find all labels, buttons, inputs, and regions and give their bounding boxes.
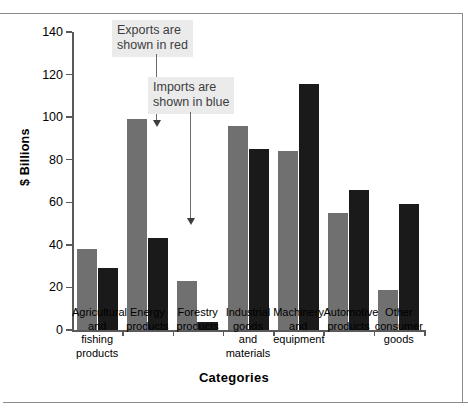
x-tick-label-4: Machineryandequipment xyxy=(273,306,323,347)
x-tick-label-line: equipment xyxy=(273,333,324,345)
x-tick-label-line: and xyxy=(289,320,307,332)
annotation-exports: Exports areshown in red xyxy=(112,20,193,57)
y-tick-label: 120 xyxy=(42,68,63,82)
x-tick-label-line: goods and xyxy=(233,320,263,346)
y-tick xyxy=(66,287,72,289)
x-tick-label-3: Industrialgoods andmaterials xyxy=(223,306,273,360)
y-tick-label: 40 xyxy=(49,238,63,252)
y-tick xyxy=(66,244,72,246)
bar-exports-1 xyxy=(127,119,147,330)
annotation-exports-arrow-head xyxy=(153,120,161,127)
x-tick-label-line: materials xyxy=(226,347,271,359)
x-tick-label-0: Agriculturaland fishingproducts xyxy=(72,306,122,360)
frame-bottom-border xyxy=(3,402,468,403)
annotation-imports-arrow-head xyxy=(187,218,195,225)
frame-top-border xyxy=(0,13,462,14)
x-tick-label-line: products xyxy=(177,320,219,332)
y-tick xyxy=(66,74,72,76)
x-tick-label-line: goods xyxy=(384,333,414,345)
y-tick-label: 80 xyxy=(49,153,63,167)
bar-imports-4 xyxy=(299,84,319,330)
x-tick-label-line: and fishing xyxy=(81,320,113,346)
y-axis-line xyxy=(72,32,74,330)
x-tick-label-line: consumer xyxy=(375,320,423,332)
x-tick-label-line: Energy xyxy=(130,306,165,318)
x-axis-title: Categories xyxy=(0,370,468,385)
x-tick-label-line: Automotive xyxy=(323,306,378,318)
y-tick-label: 140 xyxy=(42,25,63,39)
y-tick xyxy=(66,31,72,33)
annotation-line: shown in blue xyxy=(153,95,229,109)
x-tick-label-line: Agricultural xyxy=(72,306,127,318)
bar-exports-4 xyxy=(278,151,298,330)
x-tick-label-line: Other xyxy=(385,306,413,318)
annotation-imports-arrow-line xyxy=(190,112,191,220)
y-tick-label: 20 xyxy=(49,280,63,294)
y-tick xyxy=(66,159,72,161)
y-tick-label: 0 xyxy=(56,323,63,337)
x-tick-label-line: Forestry xyxy=(178,306,218,318)
annotation-line: shown in red xyxy=(117,38,188,52)
x-tick-label-line: Machinery xyxy=(273,306,324,318)
x-tick-label-1: Energyproducts xyxy=(122,306,172,333)
chart-figure: $ Billions Categories 020406080100120140… xyxy=(0,0,468,415)
plot-area: 020406080100120140 xyxy=(72,32,424,330)
x-tick-label-6: Otherconsumergoods xyxy=(374,306,424,347)
x-tick xyxy=(424,330,426,336)
frame-right-border xyxy=(462,13,463,403)
bar-imports-3 xyxy=(249,149,269,330)
y-tick xyxy=(66,202,72,204)
x-tick-label-line: Industrial xyxy=(226,306,271,318)
y-tick-label: 60 xyxy=(49,195,63,209)
y-tick-label: 100 xyxy=(42,110,63,124)
x-tick-label-line: products xyxy=(76,347,118,359)
x-tick-label-line: products xyxy=(327,320,369,332)
annotation-line: Exports are xyxy=(117,23,181,37)
y-tick xyxy=(66,116,72,118)
x-tick-label-2: Forestryproducts xyxy=(173,306,223,333)
bar-exports-3 xyxy=(228,126,248,330)
annotation-line: Imports are xyxy=(153,80,216,94)
annotation-imports: Imports areshown in blue xyxy=(148,77,234,114)
y-axis-title: $ Billions xyxy=(18,128,32,186)
x-tick-label-5: Automotiveproducts xyxy=(323,306,373,333)
x-tick-label-line: products xyxy=(126,320,168,332)
